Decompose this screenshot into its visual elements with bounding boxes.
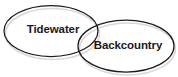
backcountry-label: Backcountry <box>94 39 163 51</box>
tidewater-label: Tidewater <box>27 23 80 35</box>
venn-diagram: Tidewater Backcountry <box>0 0 178 77</box>
venn-diagram-canvas: Tidewater Backcountry <box>0 0 178 77</box>
